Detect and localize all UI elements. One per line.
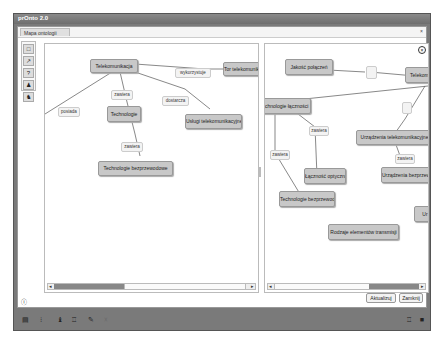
tab-bar: Mapa ontologii ×	[18, 27, 426, 38]
horizontal-scrollbar[interactable]: ◂ ▸	[47, 283, 256, 290]
scroll-track-filled	[54, 284, 124, 289]
person-link-tool-button[interactable]: ♞	[23, 92, 34, 102]
delete-icon[interactable]: ☓	[104, 316, 108, 324]
node-jakosc-polaczen[interactable]: Jakość połączeń	[285, 59, 333, 75]
title-bar: prOnto 2.0	[14, 14, 430, 24]
stamp-icon[interactable]: ♖	[406, 316, 412, 324]
scroll-left-arrow[interactable]: ◂	[49, 283, 52, 289]
scroll-thumb[interactable]	[124, 284, 246, 289]
link-label-zawiera[interactable]: zawiera	[309, 126, 329, 136]
update-button[interactable]: Aktualizuj	[366, 293, 396, 303]
left-map-canvas[interactable]: Telekomunikacja Tor telekomunikacyjny Te…	[44, 43, 259, 293]
node-technologie-bezprzewodowe[interactable]: Technologie bezprzewodowe	[279, 191, 335, 207]
link-label-dostarcza[interactable]: dostarcza	[162, 96, 189, 106]
panel-icon[interactable]: ▤	[22, 316, 29, 324]
link-label-posiada[interactable]: posiada	[58, 107, 80, 117]
scroll-right-arrow[interactable]: ▸	[251, 283, 254, 289]
node-telekomunikacja[interactable]: Telekomunikacja	[90, 59, 138, 73]
right-map-canvas[interactable]: × Jakość połączeń Telekomunikacja	[264, 43, 429, 293]
right-map-links	[265, 44, 428, 284]
scroll-track-filled	[369, 284, 419, 289]
edit-icon[interactable]: ✎	[88, 316, 94, 324]
tab-label: Mapa ontologii	[24, 30, 57, 36]
help-tool-button[interactable]: ?	[23, 68, 34, 78]
node-technologie-lacznosci[interactable]: Technologie łączności	[264, 98, 311, 114]
link-label-zawiera[interactable]: zawiera	[270, 150, 290, 160]
node-telekomunikacja[interactable]: Telekomunikacja	[405, 67, 429, 83]
node-tool-button[interactable]: □	[23, 44, 34, 54]
close-icon[interactable]: ×	[420, 28, 423, 34]
node-uslugi-telekomunikacyjne[interactable]: Usługi telekomunikacyjne	[185, 114, 242, 129]
tool-palette: □ ↗ ? ♟ ♞	[21, 41, 36, 91]
scroll-left-arrow[interactable]: ◂	[269, 283, 272, 289]
node-tor-telekomunikacyjny[interactable]: Tor telekomunikacyjny	[223, 62, 259, 76]
node-technologie-bezprzewodowe[interactable]: Technologie bezprzewodowe	[98, 161, 173, 176]
link-label-wykorzystuje[interactable]: wykorzystuje	[175, 68, 211, 78]
scroll-right-arrow[interactable]: ▸	[421, 283, 424, 289]
node-urzadzenia-telekomunikacyjne[interactable]: Urządzenia telekomunikacyjne	[356, 130, 429, 145]
node-ur[interactable]: Ur	[414, 206, 429, 222]
status-bar: ▤ ⁝ ♝ ♖ ✎ ☓ ♖ ■	[14, 310, 430, 330]
link-label-zawiera[interactable]: zawiera	[395, 154, 415, 164]
dots-icon[interactable]: ⁝	[40, 316, 42, 324]
person-tool-button[interactable]: ♟	[23, 80, 34, 90]
app-window: prOnto 2.0 Mapa ontologii × □ ↗ ? ♟ ♞	[13, 13, 431, 331]
node-urzadzenia-bezprzewodowe[interactable]: Urządzenia bezprzewodowe	[381, 167, 429, 183]
stamp-icon[interactable]: ♖	[71, 316, 77, 324]
scroll-thumb[interactable]	[274, 284, 371, 289]
node-technologie[interactable]: Technologie	[107, 106, 141, 122]
user-icon[interactable]: ♝	[57, 316, 63, 324]
stop-icon[interactable]: ■	[420, 316, 424, 323]
window-title: prOnto 2.0	[18, 15, 48, 21]
close-button[interactable]: Zamknij	[399, 293, 423, 303]
link-label-zawiera[interactable]: zawiera	[111, 90, 133, 100]
link-label-zawiera[interactable]: zawiera	[121, 142, 143, 152]
panel-splitter[interactable]	[258, 167, 261, 177]
info-icon[interactable]: ⓘ	[21, 297, 27, 306]
node-rodzaje-elementow-transmisji[interactable]: Rodzaje elementów transmisji	[328, 224, 399, 240]
node-lacznosc-optyczna[interactable]: Łączność optyczna	[304, 168, 346, 184]
link-label-empty[interactable]	[366, 66, 377, 79]
horizontal-scrollbar[interactable]: ◂ ▸	[267, 283, 426, 290]
link-tool-button[interactable]: ↗	[23, 56, 34, 66]
link-label-empty[interactable]	[402, 102, 412, 114]
tab-ontology-map[interactable]: Mapa ontologii	[20, 28, 70, 36]
client-area: Mapa ontologii × □ ↗ ? ♟ ♞	[17, 26, 427, 308]
